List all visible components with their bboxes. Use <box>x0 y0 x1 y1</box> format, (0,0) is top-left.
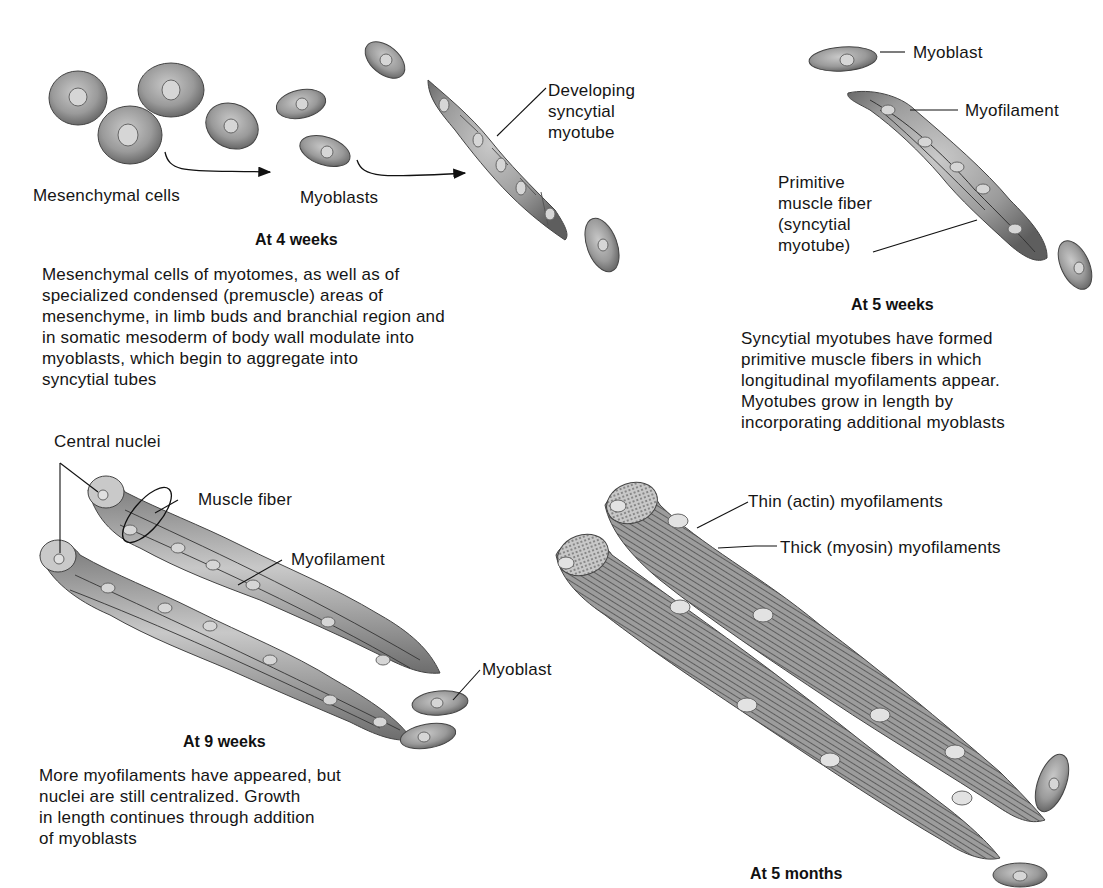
label-muscle-fiber: Muscle fiber <box>198 490 292 510</box>
label-thin-actin-myofilaments: Thin (actin) myofilaments <box>748 492 943 512</box>
muscle-fibers-9wk-illustration <box>40 476 440 740</box>
label-myofilament-5wk: Myofilament <box>965 101 1059 121</box>
panel-description-9-weeks: More myofilaments have appeared, but nuc… <box>39 765 341 849</box>
myotube-leader-line <box>497 88 546 136</box>
label-thick-myosin-myofilaments: Thick (myosin) myofilaments <box>780 538 1001 558</box>
label-central-nuclei: Central nuclei <box>54 432 161 452</box>
label-mesenchymal-cells: Mesenchymal cells <box>33 186 180 206</box>
panel-title-5-weeks: At 5 weeks <box>851 296 934 314</box>
myoblasts-9wk-illustration <box>398 689 469 753</box>
panel-title-4-weeks: At 4 weeks <box>255 231 338 249</box>
label-myoblasts: Myoblasts <box>300 188 378 208</box>
mesenchymal-cells-illustration <box>49 63 266 164</box>
panel-description-5-weeks: Syncytial myotubes have formed primitive… <box>741 328 1005 433</box>
label-developing-myotube: Developing syncytial myotube <box>548 80 635 143</box>
muscle-fibers-5mo-illustration <box>552 475 1045 859</box>
label-myoblast-5wk: Myoblast <box>913 43 983 63</box>
label-primitive-muscle-fiber: Primitive muscle fiber (syncytial myotub… <box>778 172 872 256</box>
developing-myotube-illustration <box>428 80 567 240</box>
panel-title-5-months: At 5 months <box>750 865 842 883</box>
label-myofilament-9wk: Myofilament <box>291 550 385 570</box>
panel-description-4-weeks: Mesenchymal cells of myotomes, as well a… <box>42 264 445 390</box>
panel-title-9-weeks: At 9 weeks <box>183 733 266 751</box>
label-myoblast-9wk: Myoblast <box>482 660 552 680</box>
